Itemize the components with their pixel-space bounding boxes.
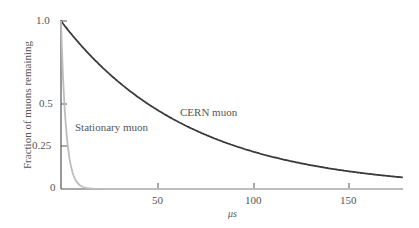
- x-axis-label: μs: [228, 208, 237, 219]
- y-tick-label: 0: [50, 181, 56, 193]
- cern-muon-curve: [61, 21, 403, 177]
- x-tick-label: 100: [245, 194, 262, 206]
- y-tick-label: 0.5: [39, 97, 53, 109]
- y-tick-label: 0.25: [32, 139, 51, 151]
- x-tick-label: 50: [152, 194, 163, 206]
- stationary-muon-annotation: Stationary muon: [75, 121, 148, 133]
- stationary-muon-curve: [61, 21, 403, 189]
- cern-muon-annotation: CERN muon: [180, 106, 237, 118]
- y-axis-label: Fraction of muons remaining: [21, 30, 33, 180]
- y-tick-label: 1.0: [36, 14, 50, 26]
- x-tick-label: 150: [340, 194, 357, 206]
